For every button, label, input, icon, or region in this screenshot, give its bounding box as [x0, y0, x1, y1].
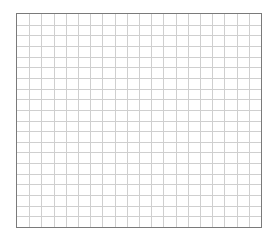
graph-paper-grid: [16, 13, 262, 228]
grid-lines: [17, 14, 261, 227]
